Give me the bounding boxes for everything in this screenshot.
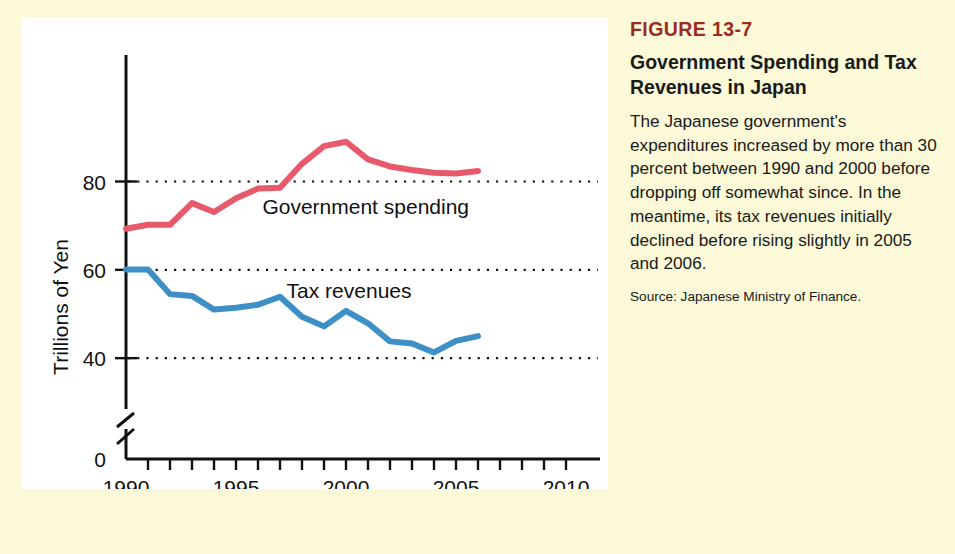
x-tick-labels: 19901995200020052010 bbox=[103, 476, 590, 489]
y-axis-title: Trillions of Yen bbox=[49, 239, 72, 375]
x-tick-label-1990: 1990 bbox=[103, 476, 150, 489]
x-axis bbox=[126, 459, 600, 470]
x-tick-label-2010: 2010 bbox=[543, 476, 590, 489]
y-tick-label-60: 60 bbox=[83, 259, 106, 282]
x-tick-label-2005: 2005 bbox=[433, 476, 480, 489]
line-chart: 4060800 19901995200020052010 Government … bbox=[22, 17, 608, 489]
chart-panel: 4060800 19901995200020052010 Government … bbox=[22, 17, 608, 489]
figure-source: Source: Japanese Ministry of Finance. bbox=[630, 289, 940, 304]
y-tick-labels: 4060800 bbox=[83, 171, 106, 472]
caption-column: FIGURE 13-7 Government Spending and Tax … bbox=[630, 18, 940, 304]
y-axis bbox=[115, 55, 137, 459]
x-tick-label-1995: 1995 bbox=[213, 476, 260, 489]
series-label-government-spending: Government spending bbox=[262, 195, 469, 218]
x-tick-label-2000: 2000 bbox=[323, 476, 370, 489]
figure-container: 4060800 19901995200020052010 Government … bbox=[0, 0, 955, 554]
series-label-tax-revenues: Tax revenues bbox=[287, 279, 412, 302]
figure-number: FIGURE 13-7 bbox=[630, 18, 940, 41]
figure-title: Government Spending and Tax Revenues in … bbox=[630, 50, 940, 100]
y-zero-label: 0 bbox=[94, 448, 106, 471]
series-labels: Government spendingTax revenues bbox=[262, 195, 469, 302]
data-series bbox=[126, 142, 478, 353]
figure-description: The Japanese government's expenditures i… bbox=[630, 110, 940, 276]
y-tick-label-80: 80 bbox=[83, 171, 106, 194]
y-tick-label-40: 40 bbox=[83, 347, 106, 370]
